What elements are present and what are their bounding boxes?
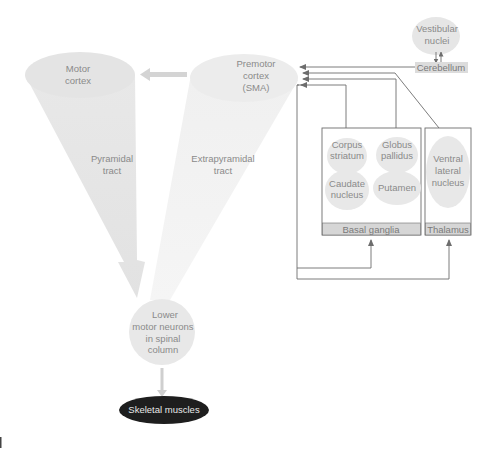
basal-ganglia-label: Basal ganglia	[342, 224, 400, 235]
putamen-node: Putamen	[373, 171, 421, 205]
skeletal-muscles-node: Skeletal muscles	[119, 396, 209, 424]
premotor-cortex-node: Premotor cortex (SMA)	[190, 54, 298, 102]
vestibular-nuclei-node: Vestibular nuclei	[412, 17, 460, 55]
cerebellum-node: Cerebellum	[415, 62, 468, 73]
premotor-label-3: (SMA)	[243, 82, 270, 93]
cerebellum-label: Cerebellum	[417, 62, 466, 73]
caudate-label-2: nucleus	[331, 189, 364, 200]
premotor-label-2: cortex	[243, 70, 269, 81]
premotor-to-thalamus-line	[297, 240, 449, 279]
putamen-label: Putamen	[378, 182, 416, 193]
ventral-lateral-label-3: nucleus	[432, 177, 465, 188]
thalamus-label: Thalamus	[427, 224, 469, 235]
motor-cortex-label-2: cortex	[65, 75, 91, 86]
pyramidal-tract-label-1: Pyramidal	[91, 153, 133, 164]
motor-cortex-label-1: Motor	[66, 63, 90, 74]
ventral-lateral-label-2: lateral	[435, 165, 461, 176]
lmn-label-3: in spinal	[146, 333, 181, 344]
lmn-to-skeletal-arrow	[157, 368, 167, 397]
vestibular-label-2: nuclei	[425, 35, 450, 46]
globus-pallidus-to-premotor-line	[303, 79, 396, 128]
pyramidal-tract-label-2: tract	[103, 165, 122, 176]
lmn-label-4: column	[148, 344, 179, 355]
lower-motor-neurons-node: Lower motor neurons in spinal column	[129, 299, 195, 365]
premotor-to-motor-arrow	[140, 68, 187, 81]
extrapyramidal-tract-cone	[150, 80, 298, 300]
vestibular-label-1: Vestibular	[416, 23, 458, 34]
pyramidal-tract-cone	[25, 75, 145, 298]
extrapyramidal-tract-label-1: Extrapyramidal	[191, 153, 254, 164]
caudate-label-1: Caudate	[329, 178, 365, 189]
lmn-label-1: Lower	[152, 309, 178, 320]
ventral-lateral-nucleus-node: Ventral lateral nucleus	[426, 136, 470, 208]
ventral-lateral-label-1: Ventral	[433, 153, 463, 164]
globus-pallidus-node: Globus pallidus	[376, 137, 418, 173]
premotor-label-1: Premotor	[236, 58, 275, 69]
globus-pallidus-label-2: pallidus	[381, 150, 413, 161]
corpus-striatum-label-1: Corpus	[332, 139, 363, 150]
corpus-striatum-label-2: striatum	[330, 150, 364, 161]
globus-pallidus-label-1: Globus	[382, 139, 412, 150]
caudate-nucleus-node: Caudate nucleus	[325, 170, 369, 210]
edge-mark	[0, 437, 2, 448]
corpus-striatum-to-premotor-line	[301, 85, 346, 128]
motor-pathway-diagram: Motor cortex Premotor cortex (SMA) Pyram…	[0, 0, 494, 452]
corpus-striatum-node: Corpus striatum	[327, 138, 367, 174]
lmn-label-2: motor neurons	[132, 321, 194, 332]
extrapyramidal-tract-label-2: tract	[214, 165, 233, 176]
motor-cortex-node: Motor cortex	[25, 52, 135, 98]
skeletal-muscles-label: Skeletal muscles	[128, 404, 200, 415]
